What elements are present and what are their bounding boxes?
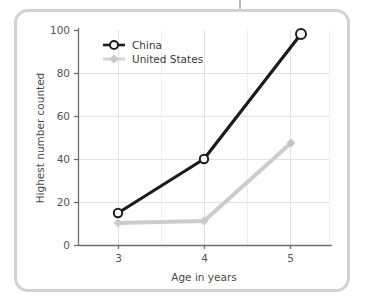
y-tick-label-0: 0 xyxy=(63,239,70,251)
y-tick-label-20: 20 xyxy=(57,196,70,208)
legend-marker-china xyxy=(110,41,118,49)
x-tick-label-5: 5 xyxy=(287,252,294,264)
y-tick-marks xyxy=(74,31,78,246)
us-point-age-3 xyxy=(114,219,123,228)
y-tick-label-100: 100 xyxy=(50,24,70,36)
china-point-age-4 xyxy=(200,155,208,163)
y-tick-label-60: 60 xyxy=(57,110,70,122)
legend-label-china: China xyxy=(132,39,162,51)
line-chart-figure: 100 80 60 40 20 0 3 4 5 Age in years Hig… xyxy=(0,0,368,305)
y-tick-label-40: 40 xyxy=(57,153,70,165)
x-axis-title: Age in years xyxy=(171,271,236,283)
china-point-age-3 xyxy=(114,209,122,217)
x-tick-label-3: 3 xyxy=(115,252,122,264)
y-axis-title: Highest number counted xyxy=(34,73,46,204)
y-tick-label-80: 80 xyxy=(57,67,70,79)
legend-label-united-states: United States xyxy=(132,53,203,65)
x-tick-label-4: 4 xyxy=(201,252,208,264)
legend-entry-china[interactable]: China xyxy=(103,39,162,51)
legend-marker-united-states xyxy=(110,55,119,64)
china-point-age-5 xyxy=(296,29,306,39)
chart-svg: 100 80 60 40 20 0 3 4 5 Age in years Hig… xyxy=(0,0,368,305)
